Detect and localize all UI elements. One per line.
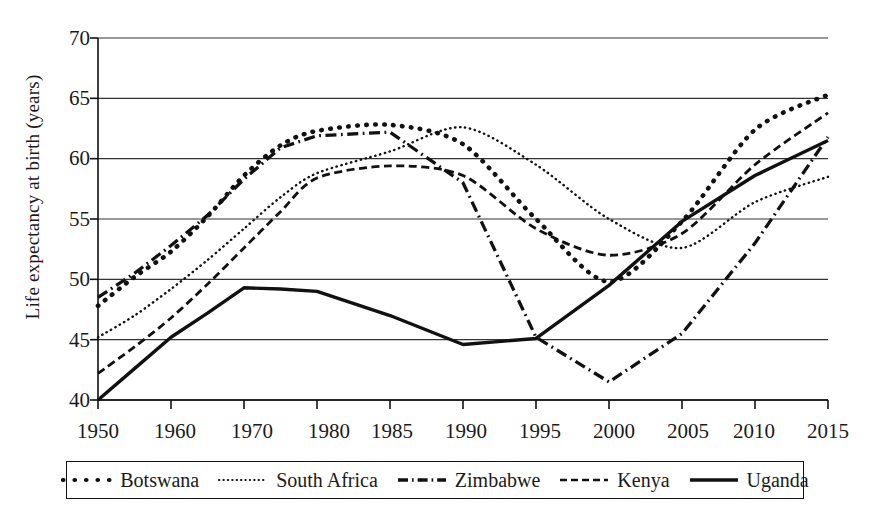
legend-label-kenya: Kenya [617,470,669,490]
y-tick-label-45: 45 [44,330,90,351]
x-tick-label-1980: 1980 [293,421,365,442]
x-tick-label-1960: 1960 [139,421,211,442]
legend-label-zimbabwe: Zimbabwe [455,470,541,490]
legend-swatch-uganda [688,474,740,486]
legend-swatch-zimbabwe [396,474,448,486]
x-tick-label-1970: 1970 [216,421,288,442]
x-tick-label-2010: 2010 [718,421,790,442]
legend-label-botswana: Botswana [120,470,199,490]
legend-item-uganda[interactable]: Uganda [688,470,809,490]
y-tick-label-55: 55 [44,209,90,230]
y-tick-label-65: 65 [44,88,90,109]
y-tick-label-60: 60 [44,148,90,169]
x-tick-label-1950: 1950 [62,421,134,442]
legend-item-kenya[interactable]: Kenya [558,470,669,490]
x-tick-label-1990: 1990 [430,421,502,442]
x-tick-label-2005: 2005 [652,421,724,442]
legend-swatch-botswana [61,474,113,486]
legend-label-south-africa: South Africa [276,470,378,490]
axis-ticks [90,38,828,409]
y-axis-title: Life expectancy at birth (years) [22,32,44,362]
x-tick-label-1985: 1985 [356,421,428,442]
series-line-kenya [98,113,828,374]
legend-label-uganda: Uganda [747,470,809,490]
x-tick-label-2015: 2015 [792,421,864,442]
chart-legend: Botswana South Africa Zimbabwe Kenya Uga… [66,461,804,499]
legend-item-botswana[interactable]: Botswana [61,470,199,490]
legend-swatch-kenya [558,474,610,486]
legend-swatch-south-africa [217,474,269,486]
chart-figure: Life expectancy at birth (years) 70 65 6… [0,0,871,516]
legend-item-zimbabwe[interactable]: Zimbabwe [396,470,541,490]
x-tick-label-1995: 1995 [504,421,576,442]
y-tick-label-40: 40 [44,390,90,411]
y-tick-label-70: 70 [44,28,90,49]
x-tick-label-2000: 2000 [578,421,650,442]
y-tick-label-50: 50 [44,269,90,290]
data-series-layer [98,95,828,400]
series-line-uganda [98,141,828,400]
legend-item-south-africa[interactable]: South Africa [217,470,378,490]
